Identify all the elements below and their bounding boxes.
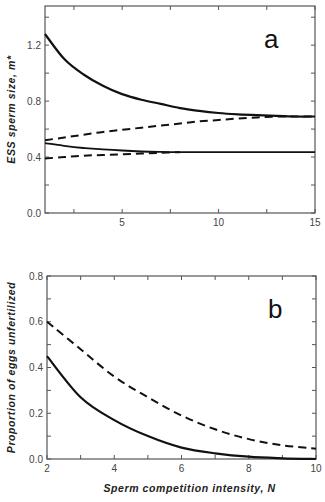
series-line-dashed: [47, 322, 316, 449]
y-axis-label: ESS sperm size, m*: [5, 55, 17, 164]
panel-label: b: [268, 294, 282, 324]
x-tick-label: 6: [179, 463, 185, 474]
y-tick-label: 0.4: [27, 152, 41, 163]
series-line-lower-dashed: [45, 152, 180, 158]
x-tick-label: 5: [119, 217, 125, 228]
series-line-upper-dashed: [45, 116, 315, 140]
y-axis-label: Proportion of eggs unfertilized: [5, 282, 17, 453]
x-tick-label: 10: [213, 217, 225, 228]
x-axis-label: Sperm competition intensity, N: [103, 482, 275, 494]
y-tick-label: 0.8: [29, 271, 43, 282]
y-tick-label: 0.0: [29, 454, 43, 465]
y-tick-label: 0.6: [29, 316, 43, 327]
x-tick-label: 10: [310, 463, 322, 474]
x-tick-label: 8: [246, 463, 252, 474]
y-tick-label: 0.0: [27, 208, 41, 219]
y-tick-label: 0.8: [27, 96, 41, 107]
y-tick-label: 1.2: [27, 40, 41, 51]
y-tick-label: 0.4: [29, 362, 43, 373]
x-tick-label: 15: [309, 217, 321, 228]
chart-panel-a: 510150.00.40.81.2ESS sperm size, m*a: [5, 6, 321, 228]
x-tick-label: 4: [111, 463, 117, 474]
chart-panel-b: 2468100.00.20.40.60.8Proportion of eggs …: [5, 271, 322, 495]
y-tick-label: 0.2: [29, 408, 43, 419]
x-tick-label: 2: [44, 463, 50, 474]
series-line-lower-solid: [45, 143, 315, 152]
panel-label: a: [264, 24, 279, 54]
figure: 510150.00.40.81.2ESS sperm size, m*a2468…: [0, 0, 325, 502]
